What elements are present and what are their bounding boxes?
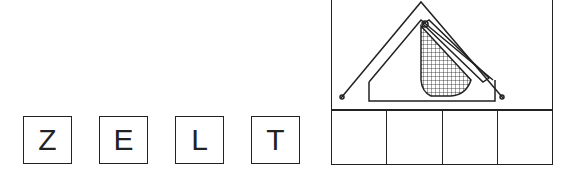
letter-tile-4: T [251, 116, 300, 164]
answer-cell-2[interactable] [387, 111, 442, 164]
answer-cell-1[interactable] [332, 111, 387, 164]
letter-tile-2: E [99, 116, 148, 164]
answer-grid [331, 110, 553, 165]
answer-cell-3[interactable] [443, 111, 498, 164]
letter-tile-1: Z [23, 116, 72, 164]
answer-cell-4[interactable] [498, 111, 552, 164]
tent-icon [331, 0, 553, 110]
letter-tile-3: L [175, 116, 224, 164]
